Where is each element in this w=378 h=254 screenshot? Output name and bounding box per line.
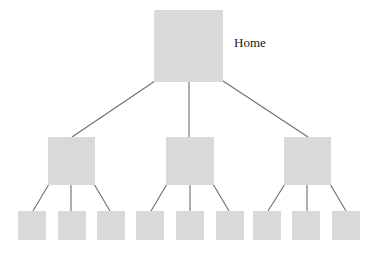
level1-node-3 xyxy=(284,137,331,185)
level2-node-1 xyxy=(18,211,46,240)
connector-line xyxy=(330,184,346,211)
root-label: Home xyxy=(234,36,266,49)
connector-line xyxy=(223,81,308,137)
connector-line xyxy=(33,184,49,211)
level2-node-5 xyxy=(176,211,204,240)
site-hierarchy-diagram: Home xyxy=(0,0,378,254)
level1-node-2 xyxy=(166,137,214,185)
level2-node-7 xyxy=(253,211,281,240)
connector-line xyxy=(94,184,110,211)
connector-line xyxy=(268,184,285,211)
root-node-home xyxy=(154,10,223,82)
level2-node-2 xyxy=(58,211,86,240)
level2-node-8 xyxy=(292,211,320,240)
level1-node-1 xyxy=(48,137,95,185)
connector-line xyxy=(151,184,167,211)
level2-node-4 xyxy=(136,211,164,240)
connector-line xyxy=(213,184,229,211)
connector-line xyxy=(72,81,155,137)
level2-node-3 xyxy=(97,211,125,240)
level2-node-6 xyxy=(216,211,244,240)
level2-node-9 xyxy=(332,211,360,240)
